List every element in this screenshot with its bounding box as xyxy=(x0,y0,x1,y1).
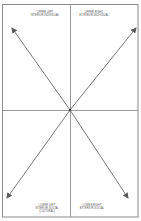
quadrant-subtitle: EXTERIOR-INDIVIDUAL xyxy=(76,14,112,17)
quadrant-diagram xyxy=(0,0,141,221)
quadrant-label-lower-left: LOWER LEFT INTERIOR-SOCIAL (CULTURAL) xyxy=(29,204,65,214)
center-point xyxy=(69,109,71,111)
quadrant-subtitle: EXTERIOR-SOCIAL xyxy=(74,207,110,210)
quadrant-label-upper-right: UPPER RIGHT EXTERIOR-INDIVIDUAL xyxy=(76,11,112,17)
quadrant-subtitle: INTERIOR-INDIVIDUAL xyxy=(27,14,63,17)
quadrant-label-upper-left: UPPER LEFT INTERIOR-INDIVIDUAL xyxy=(27,11,63,17)
quadrant-note: (CULTURAL) xyxy=(29,210,65,213)
quadrant-label-lower-right: LOWER RIGHT EXTERIOR-SOCIAL xyxy=(74,204,110,210)
